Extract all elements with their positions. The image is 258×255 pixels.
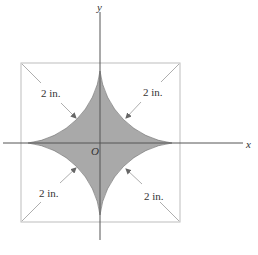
y-axis-label: y [96,1,102,13]
dimension-label-top-left: 2 in. [41,87,61,99]
origin-label: O [91,145,99,157]
dimension-bottom-right: 2 in. [126,169,179,221]
x-axis-label: x [245,138,251,150]
dimension-top-left: 2 in. [22,64,76,118]
dimension-bottom-left: 2 in. [22,168,76,221]
dimension-top-right: 2 in. [126,64,179,118]
dimension-label-bottom-left: 2 in. [39,187,59,199]
dimension-label-bottom-right: 2 in. [144,190,164,202]
shaded-area-diagram: 2 in. 2 in. 2 in. 2 in. y x O [0,0,258,255]
dimension-label-top-right: 2 in. [143,86,163,98]
